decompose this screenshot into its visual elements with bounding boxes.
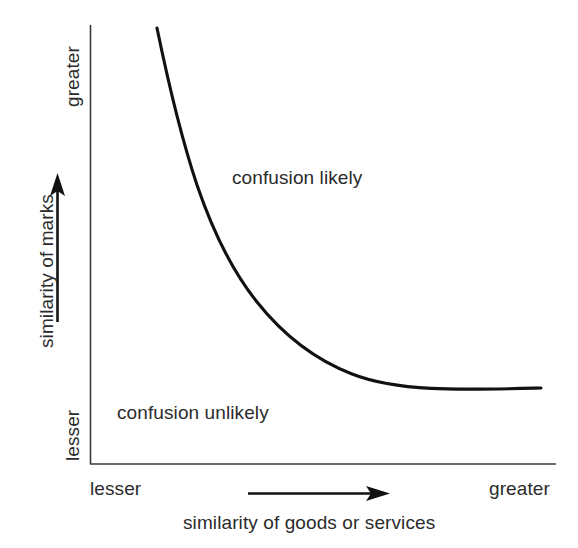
chart-canvas (0, 0, 578, 548)
confusion-threshold-curve (157, 28, 541, 389)
x-axis-title: similarity of goods or services (183, 512, 435, 534)
x-axis-tick-lesser: lesser (90, 478, 141, 500)
x-axis-direction-arrow (248, 486, 390, 501)
y-axis-title: similarity of marks (36, 194, 58, 348)
x-axis-tick-greater: greater (489, 478, 550, 500)
y-axis-tick-greater: greater (62, 46, 84, 107)
region-label-confusion-likely: confusion likely (232, 167, 362, 189)
y-axis-tick-lesser: lesser (62, 410, 84, 461)
region-label-confusion-unlikely: confusion unlikely (117, 402, 269, 424)
confusion-likelihood-chart: greater lesser similarity of marks lesse… (0, 0, 578, 548)
